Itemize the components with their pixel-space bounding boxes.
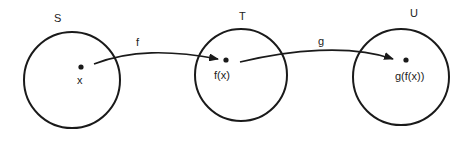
set-t-label: T xyxy=(239,10,246,22)
set-t-circle xyxy=(195,29,287,121)
point-x xyxy=(78,64,83,69)
mapping-g-label: g xyxy=(318,35,324,47)
point-fx-label: f(x) xyxy=(214,69,230,81)
function-composition-diagram: S x T f(x) U g(f(x)) f g xyxy=(0,0,469,145)
set-s-label: S xyxy=(54,12,61,24)
mapping-f-label: f xyxy=(136,36,140,48)
point-gfx xyxy=(403,57,408,62)
set-u-label: U xyxy=(410,7,418,19)
mapping-g-arrow xyxy=(240,50,393,62)
point-fx xyxy=(223,57,228,62)
mapping-f: f xyxy=(94,36,218,64)
set-t: T f(x) xyxy=(195,10,287,121)
point-gfx-label: g(f(x)) xyxy=(395,70,424,82)
point-x-label: x xyxy=(77,74,83,86)
set-s-circle xyxy=(24,32,120,128)
set-s: S x xyxy=(24,12,120,128)
set-u: U g(f(x)) xyxy=(353,7,449,125)
